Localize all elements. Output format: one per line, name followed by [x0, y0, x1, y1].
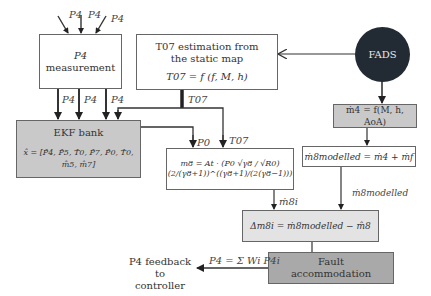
p4-sum-label: P4 = Σ Wi P4i	[209, 255, 280, 266]
t07-label-lower: T07	[229, 135, 248, 146]
m8-formula-box: m8 = At · (P0 √γ8 / √R0) (2/(γ8+1))^((γ8…	[166, 148, 294, 190]
m4-function-box: ṁ4 = f(M, h, AoA)	[333, 104, 417, 128]
t07-estimation-box: T07 estimation from the static map T07 =…	[136, 34, 278, 90]
fault-line1: Fault	[318, 256, 344, 268]
feedback-line1: P4 feedback to	[124, 256, 196, 280]
t07-label-upper: T07	[188, 94, 207, 105]
p0-label: P0	[197, 137, 210, 148]
feedback-line2: controller	[124, 280, 196, 292]
t07-box-formula: T07 = f (f, M, h)	[166, 71, 248, 83]
ekf-bank-box: EKF bank x̂ = [P̂4, P̂5, T̂0, P̂7, P̂0, …	[16, 120, 141, 178]
feedback-text: P4 feedback to controller	[124, 256, 196, 292]
p4-output-label-3: P4	[111, 94, 124, 105]
p4-output-label-2: P4	[84, 94, 97, 105]
m8-formula: m8 = At · (P0 √γ8 / √R0) (2/(γ8+1))^((γ8…	[165, 159, 296, 179]
fault-line2: accommodation	[291, 268, 371, 280]
p4-output-label-1: P4	[62, 94, 75, 105]
measurement-subtitle: measurement	[46, 62, 116, 74]
t07-box-line2: the static map	[171, 53, 244, 65]
m4-formula: ṁ4 = f(M, h, AoA)	[334, 104, 416, 128]
fads-label: FADS	[368, 49, 396, 60]
ekf-state-vector: x̂ = [P̂4, P̂5, T̂0, P̂7, P̂0, T̂0, m̂5,…	[17, 147, 140, 171]
m8i-label: ṁ8i	[279, 196, 298, 207]
m8-modelled-box: ṁ8modelled = ṁ4 + ṁf	[302, 146, 416, 167]
m8-modelled-label: ṁ8modelled	[352, 188, 408, 198]
t07-box-line1: T07 estimation from	[155, 41, 258, 53]
p4-input-label-2: P4	[88, 9, 101, 20]
p4-input-label-3: P4	[111, 13, 124, 24]
fault-accommodation-box: Fault accommodation	[268, 252, 394, 284]
measurement-title: P4	[74, 50, 87, 62]
ekf-title: EKF bank	[54, 127, 104, 139]
m8-modelled-formula: ṁ8modelled = ṁ4 + ṁf	[305, 151, 414, 163]
delta-m8-box: Δm8i = ṁ8modelled − m̂8	[242, 210, 379, 242]
delta-m8-formula: Δm8i = ṁ8modelled − m̂8	[250, 220, 371, 232]
diagram-canvas: P4 P4 P4 P4 measurement P4 P4 P4 T07 est…	[0, 0, 431, 296]
fads-node: FADS	[355, 27, 410, 82]
p4-measurement-box: P4 measurement	[39, 34, 122, 89]
p4-input-label-1: P4	[69, 9, 82, 20]
